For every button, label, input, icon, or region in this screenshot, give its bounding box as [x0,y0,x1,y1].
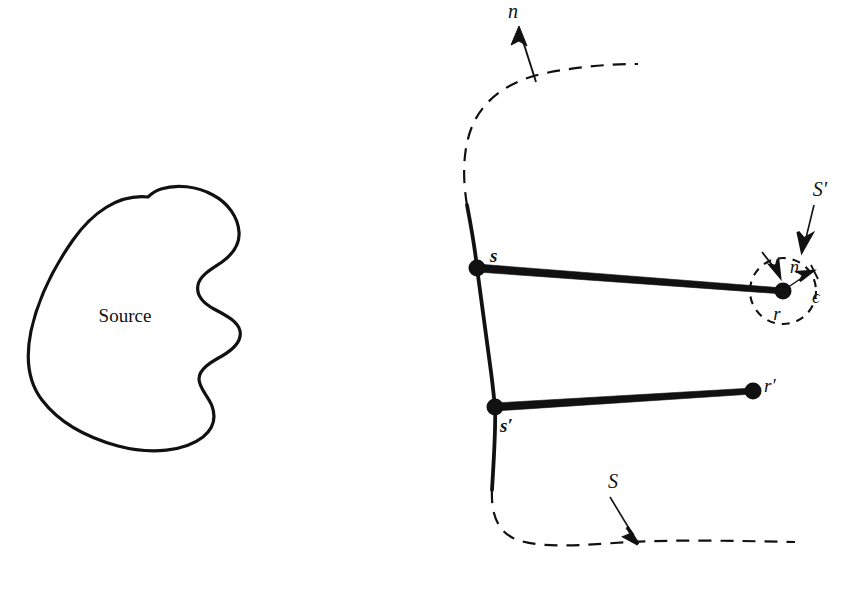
line-s-to-r [477,264,783,294]
small-surface-arrow-head [798,232,811,251]
surface-S-leader-arrow [610,497,638,544]
inner-normal-arrow-head [770,259,780,277]
small-surface-S-prime-label: S' [813,178,828,200]
surface-dashed-bottom [492,490,795,545]
connector-lines-group [477,264,783,411]
point-label-r-prime: r′ [764,375,776,396]
source-label: Source [99,305,152,326]
outward-normal-arrow-head [511,26,527,46]
small-circle-group: S' n ϵ [750,178,828,324]
point-dot-r [775,283,792,300]
point-label-r: r [773,303,781,324]
small-surface-leader-arrow [798,205,814,251]
line-s-prime-to-r-prime [495,388,753,411]
point-dot-s [469,260,486,277]
source-region-group: Source [28,186,240,450]
point-dot-s-prime [487,399,504,416]
outward-normal-arrow [511,26,536,82]
physics-surface-diagram: Source n S [0,0,862,594]
epsilon-label: ϵ [812,286,821,307]
point-label-s-prime: s′ [499,415,513,436]
surface-dashed-top [464,64,638,205]
point-dot-r-prime [745,383,762,400]
point-label-s: s [489,245,497,266]
inner-normal-label: n [790,257,799,277]
surface-S-arrow-head [625,527,638,544]
epsilon-arrow-head [798,271,813,281]
figure-root: Source n S [0,0,862,594]
surface-S-label: S [608,470,618,492]
outward-normal-label: n [508,0,518,22]
